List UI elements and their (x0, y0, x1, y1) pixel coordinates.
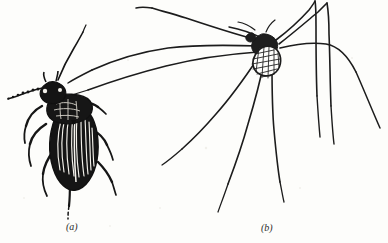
crane-fly-leg-left-upper-tip (136, 7, 152, 8)
panel-a-caption: (a) (66, 221, 78, 232)
figure-illustration: (a) (b) (0, 0, 388, 243)
crane-fly-head (246, 33, 256, 42)
beetle-eye-left (43, 89, 47, 93)
figure-artwork (0, 0, 388, 243)
beetle-eye-right (58, 88, 62, 92)
panel-b-caption: (b) (261, 222, 273, 233)
